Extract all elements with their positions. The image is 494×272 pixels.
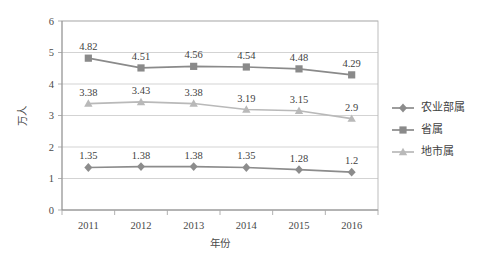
- data-point-label: 4.51: [132, 51, 150, 62]
- data-point-marker: [295, 65, 302, 72]
- line-chart: 0123456201120122013201420152016年份万人1.351…: [0, 0, 494, 272]
- legend-marker-2: [399, 126, 406, 133]
- data-point-marker: [190, 63, 197, 70]
- data-point-label: 1.38: [184, 150, 202, 161]
- data-point-label: 1.28: [290, 153, 308, 164]
- y-axis-title: 万人: [17, 105, 28, 126]
- data-point-label: 3.19: [237, 93, 255, 104]
- data-point-marker: [295, 165, 303, 174]
- y-axis-tick-label: 6: [49, 16, 54, 27]
- data-point-marker: [348, 71, 355, 78]
- data-point-label: 1.2: [345, 155, 358, 166]
- legend-item-label: 省属: [421, 123, 443, 135]
- x-axis-tick-label: 2015: [289, 220, 310, 231]
- legend-item-label: 农业部属: [421, 100, 465, 113]
- x-axis-tick-label: 2016: [341, 220, 362, 231]
- data-point-marker: [243, 63, 250, 70]
- data-point-label: 3.38: [79, 87, 97, 98]
- data-point-marker: [190, 162, 198, 171]
- data-point-marker: [242, 163, 250, 172]
- data-point-label: 1.38: [132, 150, 150, 161]
- series-line-1: [88, 167, 351, 173]
- y-axis-tick-label: 4: [49, 79, 55, 90]
- data-point-label: 1.35: [237, 150, 255, 161]
- data-point-label: 4.82: [79, 41, 97, 52]
- data-point-marker: [85, 55, 92, 62]
- data-point-label: 4.54: [237, 50, 256, 61]
- x-axis-tick-label: 2014: [236, 220, 258, 231]
- x-axis-title: 年份: [210, 237, 231, 249]
- series-line-2: [88, 58, 351, 75]
- y-axis-tick-label: 1: [49, 173, 54, 184]
- data-point-label: 3.15: [290, 94, 308, 105]
- x-axis-tick-label: 2012: [131, 220, 152, 231]
- data-point-label: 2.9: [345, 102, 358, 113]
- data-point-label: 4.29: [342, 58, 360, 69]
- data-point-label: 3.38: [184, 87, 202, 98]
- data-point-label: 1.35: [79, 150, 97, 161]
- x-axis-tick-label: 2011: [78, 220, 99, 231]
- x-axis-tick-label: 2013: [183, 220, 204, 231]
- legend-item-label: 地市属: [421, 144, 454, 157]
- data-point-marker: [137, 162, 145, 171]
- y-axis-tick-label: 0: [49, 205, 54, 216]
- data-point-marker: [137, 64, 144, 71]
- data-point-label: 4.48: [290, 52, 308, 63]
- y-axis-tick-label: 3: [49, 110, 54, 121]
- legend-marker-1: [399, 104, 407, 113]
- data-point-label: 4.56: [184, 49, 202, 60]
- data-point-marker: [84, 163, 92, 172]
- data-point-marker: [348, 168, 356, 177]
- data-point-label: 3.43: [132, 85, 150, 96]
- chart-canvas: 0123456201120122013201420152016年份万人1.351…: [0, 0, 494, 272]
- series-line-3: [88, 102, 351, 119]
- y-axis-tick-label: 5: [49, 47, 54, 58]
- y-axis-tick-label: 2: [49, 142, 54, 153]
